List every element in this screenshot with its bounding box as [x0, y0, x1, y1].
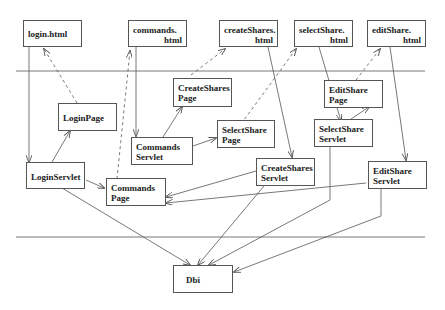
node-login-html: login.html [23, 20, 82, 47]
node-createshares-html: createShares. html [219, 20, 278, 47]
architecture-diagram: login.html commands. html createShares. … [0, 0, 445, 310]
node-commands-page: Commands Page [106, 178, 166, 206]
node-editshare-page: EditShare Page [324, 80, 383, 108]
node-commands-html: commands. html [128, 20, 187, 47]
node-commands-servlet: Commands Servlet [131, 137, 193, 165]
node-dbi: Dbi [173, 265, 233, 293]
node-editshare-servlet: EditShare Servlet [368, 161, 427, 189]
node-editshare-html: editShare. html [367, 20, 426, 47]
node-login-page: LoginPage [58, 103, 117, 131]
node-selectshare-servlet: SelectShare Servlet [314, 119, 373, 147]
node-selectshare-html: selectShare. html [294, 20, 353, 47]
node-createshares-servlet: CreateShares Servlet [256, 158, 315, 186]
node-login-servlet: LoginServlet [26, 162, 85, 189]
node-selectshare-page: SelectShare Page [217, 120, 275, 148]
node-createshares-page: CreateShares Page [173, 78, 232, 107]
